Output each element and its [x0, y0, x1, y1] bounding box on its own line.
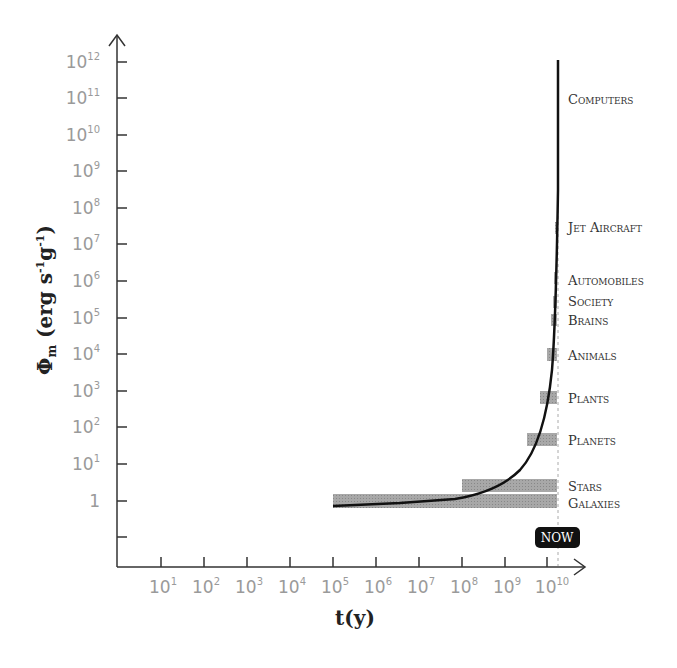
y-tick-1e11: 1011: [66, 87, 100, 108]
label-society: Society: [568, 294, 614, 309]
label-galaxies: Galaxies: [568, 496, 620, 511]
y-tick-1e2: 102: [72, 416, 100, 437]
y-tick-1e1: 101: [72, 453, 100, 474]
label-automobiles: Automobiles: [567, 273, 644, 288]
label-animals: Animals: [567, 348, 617, 363]
y-tick-1e8: 108: [72, 197, 100, 218]
x-tick-1e5: 105: [321, 576, 349, 597]
y-tick-1e12: 1012: [66, 51, 100, 72]
y-tick-1e6: 106: [72, 270, 100, 291]
label-jet-aircraft: Jet Aircraft: [566, 220, 642, 235]
x-tick-1e9: 109: [493, 576, 521, 597]
y-axis: [109, 35, 127, 567]
y-tick-1e9: 109: [72, 160, 100, 181]
y-tick-1e10: 1010: [66, 124, 100, 145]
chart: 1012 1011 1010 109 108 107 106 105 104 1…: [0, 0, 677, 668]
y-tick-labels: 1012 1011 1010 109 108 107 106 105 104 1…: [66, 51, 100, 511]
category-labels: Computers Jet Aircraft Automobiles Socie…: [566, 92, 644, 511]
x-tick-1e7: 107: [407, 576, 435, 597]
x-tick-1e2: 102: [192, 576, 220, 597]
x-tick-1e10: 1010: [535, 576, 569, 597]
label-stars: Stars: [568, 479, 602, 494]
y-axis-title: Φm (erg s-1g-1): [33, 225, 59, 375]
x-tick-1e6: 106: [364, 576, 392, 597]
y-tick-1: 1: [89, 491, 100, 511]
x-tick-1e3: 103: [235, 576, 263, 597]
y-tick-1e7: 107: [72, 233, 100, 254]
label-brains: Brains: [568, 313, 608, 328]
bar-planets: [527, 433, 557, 446]
phi-curve: [333, 60, 558, 506]
label-computers: Computers: [568, 92, 634, 107]
x-tick-1e4: 104: [278, 576, 306, 597]
x-axis-title: t(y): [335, 606, 375, 630]
y-tick-1e4: 104: [72, 343, 100, 364]
y-tick-1e5: 105: [72, 307, 100, 328]
label-planets: Planets: [568, 433, 616, 448]
now-badge: NOW: [535, 527, 580, 548]
svg-text:NOW: NOW: [541, 531, 574, 545]
x-tick-1e1: 101: [149, 576, 177, 597]
x-tick-1e8: 108: [450, 576, 478, 597]
x-tick-labels: 101 102 103 104 105 106 107 108 109 1010: [149, 576, 569, 597]
label-plants: Plants: [568, 391, 609, 406]
bar-stars: [462, 479, 557, 492]
y-tick-1e3: 103: [72, 380, 100, 401]
x-axis: [117, 557, 585, 575]
bar-galaxies: [333, 494, 557, 508]
